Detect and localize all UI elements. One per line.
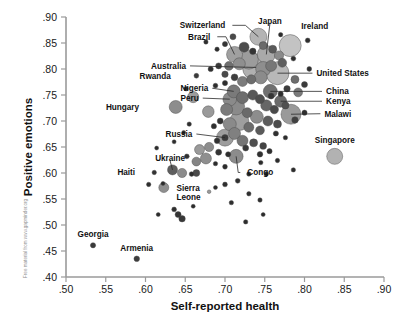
data-point bbox=[223, 164, 228, 169]
data-point bbox=[278, 91, 283, 96]
data-point bbox=[259, 42, 267, 50]
y-tick-label: .40 bbox=[42, 271, 57, 283]
data-point bbox=[233, 58, 245, 70]
x-tick-label: .80 bbox=[297, 283, 312, 295]
data-point bbox=[250, 48, 256, 54]
data-point bbox=[205, 142, 214, 151]
data-point bbox=[90, 243, 95, 248]
y-tick-label: .90 bbox=[42, 11, 57, 23]
data-point bbox=[187, 122, 191, 126]
data-point bbox=[177, 168, 186, 177]
data-point bbox=[302, 82, 308, 88]
x-tick-label: .70 bbox=[218, 283, 233, 295]
data-point bbox=[146, 182, 150, 186]
y-tick-label: .65 bbox=[42, 141, 57, 153]
y-axis-title: Positive emotions bbox=[22, 98, 34, 196]
data-point bbox=[229, 200, 233, 204]
data-point bbox=[273, 120, 281, 128]
y-tick-label: .70 bbox=[42, 115, 57, 127]
data-point bbox=[302, 110, 307, 115]
x-tick-label: .60 bbox=[138, 283, 153, 295]
country-label: Congo bbox=[247, 168, 273, 177]
data-point bbox=[222, 80, 227, 85]
data-point bbox=[203, 106, 215, 118]
x-tick-label: .90 bbox=[377, 283, 392, 295]
country-label: Ukraine bbox=[155, 154, 185, 163]
data-point bbox=[235, 178, 240, 183]
country-label: Japan bbox=[258, 17, 282, 26]
data-point bbox=[243, 220, 247, 224]
data-point bbox=[200, 153, 211, 164]
data-point bbox=[258, 198, 262, 202]
data-point bbox=[307, 67, 312, 72]
country-label: Rwanda bbox=[140, 72, 172, 81]
y-tick-label: .85 bbox=[42, 37, 57, 49]
data-point bbox=[222, 41, 227, 46]
data-point bbox=[230, 34, 236, 40]
data-point bbox=[243, 145, 249, 151]
data-point bbox=[275, 158, 279, 162]
country-label: Ireland bbox=[301, 22, 328, 31]
country-label: Switzerland bbox=[180, 21, 226, 30]
data-point bbox=[261, 213, 265, 217]
country-label: Haiti bbox=[117, 168, 135, 177]
data-point bbox=[267, 149, 272, 154]
data-point bbox=[247, 75, 256, 84]
data-point bbox=[214, 138, 220, 144]
data-point bbox=[327, 148, 343, 164]
data-point bbox=[260, 143, 267, 150]
data-point bbox=[194, 73, 199, 78]
data-point bbox=[155, 146, 159, 150]
y-tick-label: .80 bbox=[42, 63, 57, 75]
data-point bbox=[273, 131, 278, 136]
data-point bbox=[254, 71, 267, 84]
data-point bbox=[278, 58, 287, 67]
data-point bbox=[211, 124, 216, 129]
data-point bbox=[305, 38, 310, 43]
data-points-group bbox=[90, 28, 342, 261]
data-point bbox=[161, 181, 165, 185]
data-point bbox=[213, 186, 217, 190]
data-point bbox=[283, 135, 287, 139]
data-point bbox=[221, 104, 233, 116]
data-point bbox=[215, 47, 219, 51]
data-point bbox=[237, 76, 247, 86]
country-label: China bbox=[326, 87, 349, 96]
data-point bbox=[231, 74, 238, 81]
y-tick-label: .50 bbox=[42, 219, 57, 231]
data-point bbox=[266, 60, 277, 71]
data-point bbox=[156, 213, 160, 217]
data-point bbox=[242, 108, 252, 118]
data-point bbox=[291, 56, 296, 61]
country-label: Brazil bbox=[188, 33, 210, 42]
data-point bbox=[291, 75, 299, 83]
y-tick-label: .55 bbox=[42, 193, 57, 205]
data-point bbox=[294, 88, 303, 97]
data-point bbox=[236, 92, 248, 104]
data-point bbox=[270, 105, 278, 113]
country-label: Australia bbox=[151, 62, 186, 71]
data-point bbox=[225, 61, 234, 70]
country-label: Malawi bbox=[324, 110, 351, 119]
data-point bbox=[250, 139, 258, 147]
data-point bbox=[175, 212, 181, 218]
x-axis-title: Self-reported health bbox=[171, 300, 280, 312]
x-tick-label: .55 bbox=[98, 283, 113, 295]
plot-canvas: .40.45.50.55.60.65.70.75.80.85.90 .50.55… bbox=[0, 0, 394, 321]
country-label: Hungary bbox=[106, 103, 140, 112]
country-label: Georgia bbox=[78, 230, 109, 239]
country-label: SierraLeone bbox=[177, 184, 202, 202]
y-tick-label: .60 bbox=[42, 167, 57, 179]
data-point bbox=[257, 151, 263, 157]
data-point bbox=[172, 140, 176, 144]
data-point bbox=[217, 118, 223, 124]
scatter-chart: .40.45.50.55.60.65.70.75.80.85.90 .50.55… bbox=[0, 0, 394, 321]
x-axis-ticks: .50.55.60.65.70.75.80.85.90 bbox=[59, 277, 392, 295]
data-point bbox=[191, 204, 195, 208]
y-tick-label: .75 bbox=[42, 89, 57, 101]
country-label: Russia bbox=[166, 130, 193, 139]
country-label: Armenia bbox=[120, 244, 153, 253]
x-tick-label: .50 bbox=[59, 283, 74, 295]
y-tick-label: .45 bbox=[42, 245, 57, 257]
data-point bbox=[247, 192, 251, 196]
